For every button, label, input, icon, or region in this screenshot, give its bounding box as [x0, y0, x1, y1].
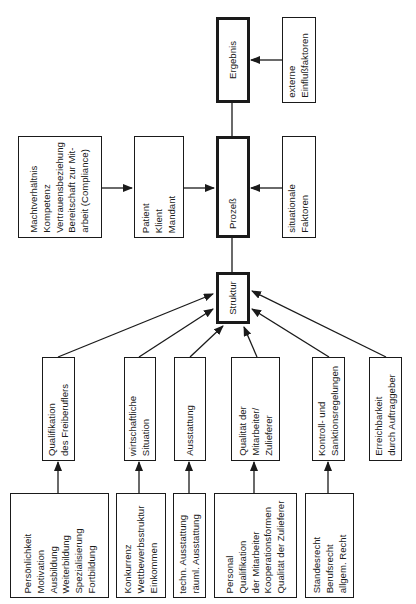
- node-label-line: Einflußfaktoren: [299, 33, 312, 98]
- node-label-line: Faktoren: [299, 184, 312, 233]
- node-label-line: Spezialisierung: [72, 528, 85, 593]
- node-ergebnis: Ergebnis: [216, 17, 250, 103]
- node-situationale-faktoren: situationaleFaktoren: [282, 136, 316, 238]
- node-label-line: Standesrecht: [310, 534, 323, 593]
- node-label-line: Qualität der Zulieferer: [275, 500, 288, 593]
- node-label-line: Wettbewerbsstruktur: [135, 505, 148, 593]
- node-ausstattung: Ausstattung: [174, 357, 206, 461]
- node-label-line: Machtverhältnis: [28, 142, 41, 233]
- node-label-line: räuml. Ausstattung: [190, 514, 203, 593]
- node-persoenlichkeit: PersönlichkeitMotivationAusbildungWeiter…: [10, 493, 109, 598]
- node-wirtschaftliche-situation: wirtschaftlicheSituation: [124, 357, 156, 461]
- node-label-line: Vertrauensbeziehung: [54, 142, 67, 233]
- node-label-line: des Freiberuflers: [59, 384, 72, 456]
- node-erreichbarkeit-text: Erreichbarkeitdurch Auftraggeber: [373, 374, 399, 456]
- node-macht-text: MachtverhältnisKompetenzVertrauensbezieh…: [28, 142, 92, 233]
- node-patient-text: PatientKlientMandant: [140, 196, 178, 233]
- edge-qualifikation-struktur: [58, 294, 213, 357]
- node-label-line: Prozeß: [227, 198, 240, 229]
- node-prozess: Prozeß: [216, 136, 250, 238]
- node-label-line: Situation: [140, 396, 153, 456]
- node-konkurrenz-text: KonkurrenzWettbewerbsstrukturEinkommen: [122, 505, 160, 593]
- node-label-line: Klient: [153, 196, 166, 233]
- node-label-line: Ergebnis: [227, 41, 240, 79]
- node-label-line: Struktur: [227, 281, 240, 315]
- node-machtverhaeltnis: MachtverhältnisKompetenzVertrauensbezieh…: [18, 136, 102, 238]
- node-qualitaet-mitarbeiter: Qualität derMitarbeiter/Zulieferer: [231, 357, 280, 461]
- edge-wirtschaftliche-struktur: [139, 309, 213, 357]
- node-label-line: Mitarbeiter/: [249, 406, 262, 456]
- node-label-line: Motivation: [34, 528, 47, 593]
- node-label-line: arbeit (Compliance): [79, 142, 92, 233]
- node-label-line: Bereitschaft zur Mit-: [66, 142, 79, 233]
- node-standesrecht: StandesrechtBerufsrechtallgem. Recht: [305, 493, 354, 598]
- node-label-line: Erreichbarkeit: [373, 374, 386, 456]
- node-label-line: Fortbildung: [85, 528, 98, 593]
- node-personal-text: PersonalQualifikationder MitarbeiterKoop…: [224, 500, 288, 593]
- edge-kontroll-struktur: [252, 309, 329, 357]
- node-qualifikation-text: Qualifikationdes Freiberuflers: [46, 384, 72, 456]
- node-label-line: Zulieferer: [262, 406, 275, 456]
- node-techn-text: techn. Ausstattungräuml. Ausstattung: [177, 514, 203, 593]
- node-label-line: der Mitarbeiter: [249, 500, 262, 593]
- node-label-line: externe: [286, 33, 299, 98]
- node-qualitaet-text: Qualität derMitarbeiter/Zulieferer: [236, 406, 274, 456]
- node-personal: PersonalQualifikationder MitarbeiterKoop…: [214, 493, 297, 598]
- node-label-line: Ausstattung: [184, 405, 197, 456]
- node-struktur: Struktur: [216, 272, 250, 324]
- node-wirtschaftliche-text: wirtschaftlicheSituation: [127, 396, 153, 456]
- node-techn-ausstattung: techn. Ausstattungräuml. Ausstattung: [173, 493, 206, 598]
- node-label-line: Kontroll- und: [316, 366, 329, 456]
- node-situationale-text: situationaleFaktoren: [286, 184, 312, 233]
- node-erreichbarkeit: Erreichbarkeitdurch Auftraggeber: [369, 357, 402, 461]
- node-label-line: techn. Ausstattung: [177, 514, 190, 593]
- edge-qualitaet-struktur: [244, 327, 257, 357]
- node-konkurrenz: KonkurrenzWettbewerbsstrukturEinkommen: [116, 493, 166, 598]
- node-label-line: Berufsrecht: [323, 534, 336, 593]
- node-label-line: Ausbildung: [47, 528, 60, 593]
- node-externe-text: externeEinflußfaktoren: [286, 33, 312, 98]
- node-standesrecht-text: StandesrechtBerufsrechtallgem. Recht: [310, 534, 348, 593]
- node-label-line: Persönlichkeit: [21, 528, 34, 593]
- node-patient-klient-mandant: PatientKlientMandant: [134, 136, 184, 238]
- node-label-line: durch Auftraggeber: [386, 374, 399, 456]
- node-label-line: Kompetenz: [41, 142, 54, 233]
- node-label-line: Weiterbildung: [60, 528, 73, 593]
- node-label-line: Qualifikation: [236, 500, 249, 593]
- node-label-line: wirtschaftliche: [127, 396, 140, 456]
- node-externe-einflussfaktoren: externeEinflußfaktoren: [282, 17, 316, 103]
- node-ausstattung-text: Ausstattung: [184, 405, 197, 456]
- node-kontroll-sanktion: Kontroll- undSanktionsregelungen: [312, 357, 345, 461]
- node-ergebnis-text: Ergebnis: [227, 41, 240, 79]
- node-struktur-text: Struktur: [227, 281, 240, 315]
- node-label-line: Personal: [224, 500, 237, 593]
- node-label-line: situationale: [286, 184, 299, 233]
- node-label-line: Konkurrenz: [122, 505, 135, 593]
- node-prozess-text: Prozeß: [227, 198, 240, 229]
- node-label-line: Sanktionsregelungen: [329, 366, 342, 456]
- node-kontroll-text: Kontroll- undSanktionsregelungen: [316, 366, 342, 456]
- edge-erreichbarkeit-struktur: [252, 291, 386, 357]
- node-label-line: Patient: [140, 196, 153, 233]
- node-label-line: Qualität der: [236, 406, 249, 456]
- node-label-line: Einkommen: [147, 505, 160, 593]
- node-label-line: Kooperationsformen: [262, 500, 275, 593]
- node-qualifikation: Qualifikationdes Freiberuflers: [42, 357, 75, 461]
- node-label-line: Mandant: [165, 196, 178, 233]
- node-persoenlichkeit-text: PersönlichkeitMotivationAusbildungWeiter…: [21, 528, 98, 593]
- node-label-line: Qualifikation: [46, 384, 59, 456]
- edge-ausstattung-struktur: [190, 326, 223, 357]
- node-label-line: allgem. Recht: [336, 534, 349, 593]
